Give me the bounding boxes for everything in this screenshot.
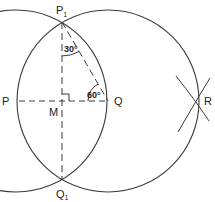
angle-label-30: 30° bbox=[64, 44, 78, 54]
dashed-line-p1-q bbox=[62, 22, 108, 101]
label-r: R bbox=[204, 95, 212, 107]
right-angle-marker bbox=[62, 94, 69, 101]
label-q1: Q1 bbox=[56, 188, 69, 201]
label-p1: P1 bbox=[56, 4, 67, 18]
geometry-diagram: 30° 60° P1 P M Q R Q1 bbox=[0, 0, 215, 202]
label-m: M bbox=[49, 106, 58, 118]
label-q: Q bbox=[114, 95, 123, 107]
label-p: P bbox=[2, 95, 9, 107]
angle-label-60: 60° bbox=[87, 90, 101, 100]
